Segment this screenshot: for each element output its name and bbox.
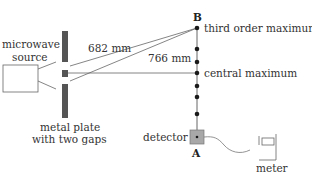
dot bbox=[195, 47, 200, 52]
detector-wire bbox=[204, 137, 250, 153]
source-label-line1: microwave bbox=[2, 38, 60, 50]
dot bbox=[195, 60, 200, 65]
dot-b bbox=[195, 26, 200, 31]
detector bbox=[190, 130, 204, 144]
plate-label-line2: with two gaps bbox=[32, 133, 107, 145]
plate-label-line1: metal plate bbox=[40, 121, 100, 133]
microwave-source bbox=[3, 62, 56, 92]
diagram-canvas: microwave source metal plate with two ga… bbox=[0, 0, 312, 178]
source-label-line2: source bbox=[12, 51, 48, 63]
central-max-label: central maximum bbox=[204, 67, 297, 79]
distance-label-766: 766 mm bbox=[148, 52, 191, 64]
third-order-label: third order maximum bbox=[204, 22, 312, 34]
distance-label-682: 682 mm bbox=[88, 42, 131, 54]
point-b-label: B bbox=[193, 11, 202, 23]
point-a-label: A bbox=[191, 147, 201, 159]
dot bbox=[195, 84, 200, 89]
metal-plate bbox=[62, 31, 68, 118]
meter bbox=[259, 134, 276, 160]
meter-label: meter bbox=[256, 162, 289, 174]
dot bbox=[195, 95, 200, 100]
dot-central bbox=[195, 71, 200, 76]
detector-label: detector bbox=[143, 131, 189, 143]
dot bbox=[195, 112, 200, 117]
